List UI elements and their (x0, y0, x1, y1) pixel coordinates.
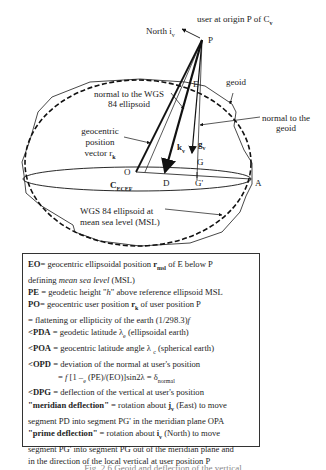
legend-text: = (58, 372, 65, 382)
legend-term: "prime deflection" (28, 428, 97, 438)
label-point-d: D (163, 178, 170, 188)
legend-text: segment PG' into segment PG out of the m… (28, 444, 234, 454)
legend-line: PO= geocentric user position rk of user … (28, 298, 254, 314)
legend-text: (ellipsoidal earth) (126, 327, 189, 337)
legend-text: " above reference ellipsoid MSL (111, 287, 223, 297)
legend-term: <PDA (28, 327, 51, 337)
legend-line: "prime deflection" = rotation about iv (… (28, 427, 254, 443)
legend-text: of user position P (138, 299, 201, 309)
legend-line: = flattening or ellipticity of the earth… (28, 314, 254, 326)
legend-term: <POA (28, 343, 51, 353)
legend-line: "meridian deflection" = rotation about j… (28, 399, 254, 415)
legend-text: (North) to move (162, 428, 220, 438)
legend-text: = deviation of the normal at user's posi… (51, 359, 200, 369)
label-user-origin: user at origin P of Cv (197, 14, 272, 28)
label-frame-cecef: CECEF (110, 180, 133, 194)
geodesy-diagram: user at origin P of Cv North iv P E geoi… (0, 0, 326, 250)
label-geoid: geoid (226, 77, 246, 87)
legend-text: defining (28, 275, 59, 285)
legend-text: = geodetic height " (39, 287, 107, 297)
label-point-e: E (193, 79, 199, 89)
label-point-o: O (124, 167, 131, 177)
legend-text: = geocentric ellipsoidal position (40, 259, 153, 269)
figure-caption: Fig. 2.6 Geoid and deflection of the ver… (0, 461, 326, 470)
legend-text: (PE)/(EO)]sin2λ (86, 372, 145, 382)
legend-text: = rotation about (109, 400, 168, 410)
label-point-g: G (197, 157, 204, 167)
legend-text: = geocentric latitude angle λ (51, 343, 151, 353)
legend-line: segment PG' into segment PG out of the m… (28, 443, 254, 455)
legend-text: (East) to move (174, 400, 227, 410)
legend-term: PE (28, 287, 39, 297)
legend-term: PO (28, 299, 40, 309)
legend-text: [1 – (67, 372, 83, 382)
legend-text: (spherical earth) (156, 343, 214, 353)
label-k-vector: kv (177, 142, 185, 156)
legend-line: <OPD = deviation of the normal at user's… (28, 358, 254, 370)
legend-text: = δ (145, 372, 158, 382)
legend-term: EO (28, 259, 40, 269)
label-geocentric-vector: geocentricpositionvector rk (73, 126, 127, 163)
label-normal-wgs84: normal to the WGS84 ellipsoid (86, 89, 172, 109)
legend-text: = geodetic latitude λ (51, 327, 124, 337)
legend-line: defining mean sea level (MSL) (28, 274, 254, 286)
legend-text: = rotation about (97, 428, 156, 438)
legend-line: <PDA = geodetic latitude λe (ellipsoidal… (28, 326, 254, 342)
legend-text: segment PD into segment PG' in the merid… (28, 416, 224, 426)
legend-line: segment PD into segment PG' in the merid… (28, 415, 254, 427)
legend-text: of E below P (166, 259, 213, 269)
legend-text: = geocentric user position (40, 299, 131, 309)
legend-line: <POA = geocentric latitude angle λ c (sp… (28, 342, 254, 358)
legend-term: "meridian deflection" (28, 400, 109, 410)
legend-box: EO= geocentric ellipsoidal position rmsl… (22, 253, 260, 447)
label-point-p: P (208, 35, 213, 45)
legend-text: = flattening or ellipticity of the earth… (28, 315, 188, 325)
legend-term: <DPG (28, 387, 51, 397)
legend-line: PE = geodetic height "h" above reference… (28, 286, 254, 298)
label-normal-geoid: normal to thegeoid (256, 113, 316, 133)
legend-subscript: msl (157, 265, 166, 271)
label-point-a: A (255, 178, 262, 188)
legend-line: <DPG = deflection of the vertical at use… (28, 386, 254, 398)
legend-term: <OPD (28, 359, 51, 369)
legend-text: = deflection of the vertical at user's p… (51, 387, 204, 397)
label-wgs84-msl: WGS 84 ellipsoid atmean sea level (MSL) (80, 206, 160, 228)
legend-subscript: normal (158, 377, 175, 383)
legend-line: EO= geocentric ellipsoidal position rmsl… (28, 258, 254, 274)
legend-text: (MSL) (109, 275, 135, 285)
legend-line: = f [1 –e (PE)/(EO)]sin2λ = δnormal (28, 371, 254, 387)
legend-italic: mean sea level (59, 275, 110, 285)
label-north: North iv (146, 26, 175, 40)
legend-italic: f (188, 315, 190, 325)
label-point-g-prime: G' (195, 178, 203, 188)
label-g-vector: gv (198, 139, 206, 153)
